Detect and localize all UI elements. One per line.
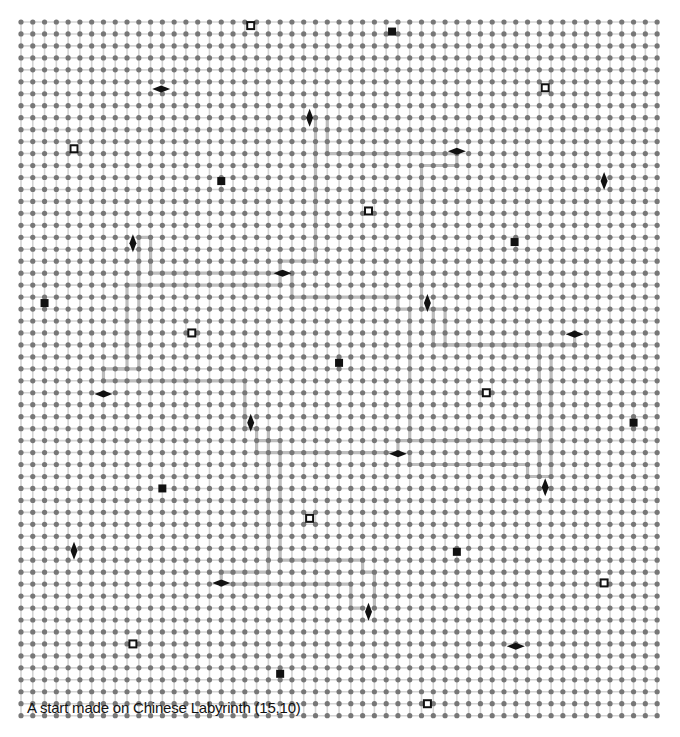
- grid-dot[interactable]: [572, 534, 577, 539]
- grid-dot[interactable]: [42, 115, 47, 120]
- grid-dot[interactable]: [66, 677, 71, 682]
- grid-dot[interactable]: [513, 366, 518, 371]
- grid-dot[interactable]: [207, 342, 212, 347]
- grid-dot[interactable]: [419, 342, 424, 347]
- grid-dot[interactable]: [419, 151, 424, 156]
- grid-dot[interactable]: [655, 175, 660, 180]
- grid-dot[interactable]: [431, 342, 436, 347]
- grid-dot[interactable]: [313, 211, 318, 216]
- grid-dot[interactable]: [18, 605, 23, 610]
- grid-dot[interactable]: [160, 127, 165, 132]
- grid-dot[interactable]: [183, 641, 188, 646]
- grid-dot[interactable]: [325, 354, 330, 359]
- grid-dot[interactable]: [549, 283, 554, 288]
- grid-dot[interactable]: [631, 19, 636, 24]
- grid-dot[interactable]: [419, 474, 424, 479]
- grid-dot[interactable]: [395, 103, 400, 108]
- grid-dot[interactable]: [372, 462, 377, 467]
- grid-dot[interactable]: [254, 55, 259, 60]
- grid-dot[interactable]: [266, 283, 271, 288]
- grid-dot[interactable]: [478, 689, 483, 694]
- grid-dot[interactable]: [289, 103, 294, 108]
- grid-dot[interactable]: [207, 163, 212, 168]
- grid-dot[interactable]: [266, 486, 271, 491]
- grid-dot[interactable]: [172, 151, 177, 156]
- grid-dot[interactable]: [619, 486, 624, 491]
- grid-dot[interactable]: [242, 330, 247, 335]
- grid-dot[interactable]: [289, 522, 294, 527]
- grid-dot[interactable]: [501, 43, 506, 48]
- grid-dot[interactable]: [643, 462, 648, 467]
- grid-dot[interactable]: [254, 641, 259, 646]
- grid-dot[interactable]: [584, 665, 589, 670]
- grid-dot[interactable]: [113, 235, 118, 240]
- grid-dot[interactable]: [325, 701, 330, 706]
- grid-dot[interactable]: [431, 474, 436, 479]
- grid-dot[interactable]: [431, 354, 436, 359]
- grid-dot[interactable]: [619, 306, 624, 311]
- grid-dot[interactable]: [360, 701, 365, 706]
- grid-dot[interactable]: [101, 342, 106, 347]
- grid-dot[interactable]: [384, 318, 389, 323]
- grid-dot[interactable]: [254, 330, 259, 335]
- grid-dot[interactable]: [101, 175, 106, 180]
- grid-dot[interactable]: [419, 546, 424, 551]
- grid-dot[interactable]: [230, 139, 235, 144]
- grid-dot[interactable]: [289, 139, 294, 144]
- grid-dot[interactable]: [242, 474, 247, 479]
- grid-dot[interactable]: [148, 522, 153, 527]
- grid-dot[interactable]: [431, 414, 436, 419]
- grid-dot[interactable]: [54, 43, 59, 48]
- grid-dot[interactable]: [619, 187, 624, 192]
- grid-dot[interactable]: [148, 354, 153, 359]
- grid-dot[interactable]: [195, 390, 200, 395]
- grid-dot[interactable]: [466, 713, 471, 718]
- grid-dot[interactable]: [513, 306, 518, 311]
- grid-dot[interactable]: [207, 55, 212, 60]
- grid-dot[interactable]: [124, 223, 129, 228]
- grid-dot[interactable]: [419, 498, 424, 503]
- grid-dot[interactable]: [360, 689, 365, 694]
- grid-dot[interactable]: [183, 43, 188, 48]
- grid-dot[interactable]: [89, 175, 94, 180]
- grid-dot[interactable]: [242, 677, 247, 682]
- grid-dot[interactable]: [384, 462, 389, 467]
- grid-dot[interactable]: [101, 271, 106, 276]
- grid-dot[interactable]: [372, 163, 377, 168]
- grid-dot[interactable]: [101, 641, 106, 646]
- grid-dot[interactable]: [172, 629, 177, 634]
- grid-dot[interactable]: [596, 534, 601, 539]
- grid-dot[interactable]: [66, 175, 71, 180]
- grid-dot[interactable]: [160, 426, 165, 431]
- grid-dot[interactable]: [360, 294, 365, 299]
- grid-dot[interactable]: [301, 414, 306, 419]
- grid-dot[interactable]: [301, 283, 306, 288]
- grid-dot[interactable]: [136, 211, 141, 216]
- grid-dot[interactable]: [42, 330, 47, 335]
- grid-dot[interactable]: [584, 139, 589, 144]
- grid-dot[interactable]: [195, 593, 200, 598]
- grid-dot[interactable]: [219, 450, 224, 455]
- grid-dot[interactable]: [407, 211, 412, 216]
- grid-dot[interactable]: [313, 199, 318, 204]
- grid-dot[interactable]: [442, 629, 447, 634]
- grid-dot[interactable]: [655, 570, 660, 575]
- grid-dot[interactable]: [160, 378, 165, 383]
- grid-dot[interactable]: [631, 534, 636, 539]
- grid-dot[interactable]: [89, 271, 94, 276]
- grid-dot[interactable]: [442, 199, 447, 204]
- grid-dot[interactable]: [655, 91, 660, 96]
- grid-dot[interactable]: [54, 665, 59, 670]
- grid-dot[interactable]: [30, 211, 35, 216]
- grid-dot[interactable]: [607, 534, 612, 539]
- grid-dot[interactable]: [148, 558, 153, 563]
- grid-dot[interactable]: [18, 438, 23, 443]
- grid-dot[interactable]: [549, 55, 554, 60]
- grid-dot[interactable]: [148, 259, 153, 264]
- grid-dot[interactable]: [348, 19, 353, 24]
- grid-dot[interactable]: [207, 211, 212, 216]
- grid-dot[interactable]: [501, 593, 506, 598]
- grid-dot[interactable]: [101, 330, 106, 335]
- grid-dot[interactable]: [89, 115, 94, 120]
- grid-dot[interactable]: [442, 79, 447, 84]
